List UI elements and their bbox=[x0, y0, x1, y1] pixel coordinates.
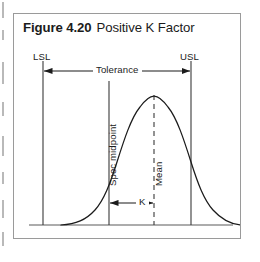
mean-label: Mean bbox=[153, 162, 164, 186]
k-factor-diagram bbox=[14, 14, 240, 238]
chart-plot-area: LSL USL Tolerance K Spec midpoint Mean bbox=[14, 14, 240, 238]
figure-frame: Figure 4.20Positive K Factor bbox=[13, 13, 241, 239]
spec-midpoint-label: Spec midpoint bbox=[107, 124, 118, 186]
k-label: K bbox=[136, 196, 149, 207]
lsl-label: LSL bbox=[33, 51, 50, 62]
page-scan-edge bbox=[0, 0, 5, 262]
usl-label: USL bbox=[180, 51, 199, 62]
distribution-curve bbox=[61, 96, 240, 225]
tolerance-label: Tolerance bbox=[93, 64, 142, 75]
